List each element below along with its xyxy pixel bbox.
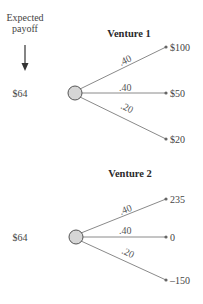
venture-1-prob-3: .20: [119, 100, 135, 115]
venture-2-tree: Venture 2 $64 .40 .40 .20 235 0 –150: [13, 168, 191, 286]
venture-1-payoff-3: $20: [170, 134, 185, 145]
venture-1-prob-1: .40: [117, 52, 133, 67]
venture-1-payoff-1: $100: [170, 42, 190, 53]
expected-payoff-label-line1: Expected: [6, 12, 43, 23]
venture-1-title: Venture 1: [107, 28, 150, 39]
venture-2-prob-1: .40: [118, 202, 134, 217]
venture-1-chance-node: [68, 86, 82, 100]
venture-2-prob-2: .40: [119, 225, 132, 236]
venture-2-chance-node: [69, 230, 83, 244]
venture-1-end-node-2: [164, 91, 167, 94]
down-arrow-icon: [22, 45, 29, 71]
decision-tree-diagram: Expected payoff Venture 1 $64 .40 .40 .2…: [0, 0, 203, 304]
venture-2-payoff-1: 235: [170, 194, 185, 205]
venture-2-end-node-3: [164, 278, 167, 281]
expected-payoff-label-line2: payoff: [12, 23, 39, 34]
venture-1-end-node-1: [164, 45, 167, 48]
venture-1-expected-payoff: $64: [13, 88, 28, 99]
venture-1-tree: Venture 1 $64 .40 .40 .20 $100 $50 $20: [13, 28, 191, 145]
venture-2-end-node-2: [164, 235, 167, 238]
venture-1-end-node-3: [164, 137, 167, 140]
venture-2-title: Venture 2: [108, 168, 151, 179]
venture-1-prob-2: .40: [119, 82, 132, 93]
venture-2-expected-payoff: $64: [13, 232, 28, 243]
venture-1-payoff-2: $50: [170, 88, 185, 99]
venture-2-prob-3: .20: [120, 245, 136, 260]
venture-2-end-node-1: [164, 197, 167, 200]
venture-2-payoff-2: 0: [170, 232, 175, 243]
venture-2-payoff-3: –150: [169, 275, 190, 286]
